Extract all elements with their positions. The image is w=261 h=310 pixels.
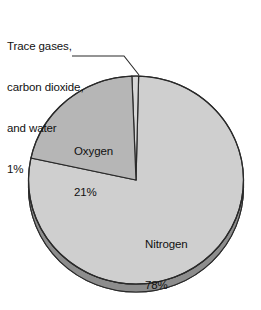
callout-line-4-percent: 1%	[7, 163, 84, 177]
callout-line-2: carbon dioxide,	[7, 81, 84, 95]
slice-label-oxygen: Oxygen 21%	[74, 118, 113, 213]
oxygen-percent: 21%	[74, 186, 113, 200]
slice-label-nitrogen: Nitrogen 78%	[145, 211, 188, 306]
callout-line-3: and water	[7, 122, 84, 136]
callout-line-1: Trace gases,	[7, 40, 84, 54]
nitrogen-name: Nitrogen	[145, 238, 188, 252]
nitrogen-percent: 78%	[145, 279, 188, 293]
callout-label-trace-gases: Trace gases, carbon dioxide, and water 1…	[7, 13, 84, 190]
oxygen-name: Oxygen	[74, 145, 113, 159]
